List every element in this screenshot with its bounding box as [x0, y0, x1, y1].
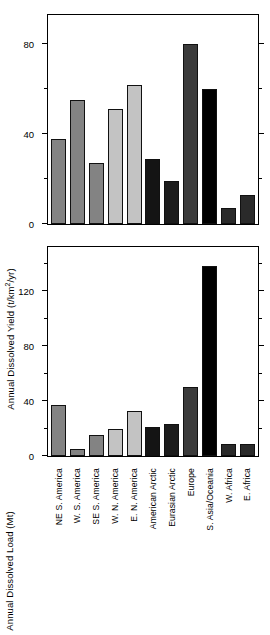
bar — [221, 208, 236, 224]
top-ytick-right-minor-60 — [258, 88, 262, 89]
top-ytick-label-0: 0 — [29, 219, 34, 230]
top-ytick-right-80 — [258, 43, 264, 44]
bar — [108, 429, 123, 457]
bottom-ytick-right-40 — [258, 400, 264, 401]
bar — [70, 100, 85, 224]
x-axis-label: E. Africa — [242, 468, 252, 501]
x-axis-label: Eurasian Arctic — [167, 468, 177, 527]
top-ytick-right-minor-20 — [258, 178, 262, 179]
top-ytick-80: 80 — [42, 43, 48, 44]
x-axis-label-slot: S. Asia/Oceania — [202, 468, 217, 543]
bar — [240, 195, 255, 224]
x-axis-label: Europe — [186, 468, 196, 496]
bar — [127, 85, 142, 224]
x-axis-label-slot: W. N. America — [108, 468, 123, 543]
top-ytick-minor-20 — [44, 178, 48, 179]
bottom-ytick-right-80 — [258, 345, 264, 346]
bottom-ytick-minor-60 — [44, 373, 48, 374]
bar — [221, 444, 236, 456]
x-axis-label-slot: E. N. America — [127, 468, 142, 543]
bottom-ytick-right-minor-60 — [258, 373, 262, 374]
x-axis-labels: NE S. AmericaW. S. AmericaSE S. AmericaW… — [48, 468, 258, 543]
x-axis-label-slot: American Arctic — [145, 468, 160, 543]
bar — [89, 163, 104, 224]
x-axis-label-slot: Eurasian Arctic — [164, 468, 179, 543]
x-axis-label: W. S. America — [72, 468, 82, 523]
top-bar-group — [49, 15, 257, 224]
bottom-ytick-right-minor-100 — [258, 318, 262, 319]
bar — [145, 159, 160, 224]
x-axis-label: E. N. America — [129, 468, 139, 522]
bottom-ytick-label-80: 80 — [23, 341, 34, 352]
bar — [108, 109, 123, 224]
bottom-ytick-minor-140 — [44, 263, 48, 264]
bottom-ytick-40: 40 — [42, 400, 48, 401]
top-plot-area: 0 40 80 — [47, 14, 259, 225]
bar — [240, 444, 255, 456]
x-axis-label-slot: W. S. America — [70, 468, 85, 543]
top-panel: Annual Dissolved Yield (t/km2/yr) 0 40 8… — [0, 6, 270, 234]
bar — [164, 424, 179, 456]
x-axis-label: NE S. America — [54, 468, 64, 525]
bar — [145, 427, 160, 456]
bottom-ytick-minor-20 — [44, 428, 48, 429]
x-axis-label-slot: SE S. America — [89, 468, 104, 543]
x-axis-label: W. N. America — [110, 468, 120, 524]
bar — [51, 405, 66, 456]
bottom-ytick-80: 80 — [42, 345, 48, 346]
bottom-ytick-120: 120 — [42, 290, 48, 291]
top-ytick-minor-60 — [44, 88, 48, 89]
bottom-ytick-label-40: 40 — [23, 396, 34, 407]
bar — [164, 181, 179, 224]
bottom-ytick-right-minor-20 — [258, 428, 262, 429]
bottom-ytick-right-120 — [258, 290, 264, 291]
x-axis-label-slot: E. Africa — [240, 468, 255, 543]
top-ytick-40: 40 — [42, 133, 48, 134]
bottom-ytick-0: 0 — [42, 455, 48, 456]
top-ytick-right-40 — [258, 133, 264, 134]
top-ytick-0: 0 — [42, 223, 48, 224]
bottom-plot-area: 0 40 80 120 — [47, 246, 259, 457]
bottom-panel: Annual Dissolved Load (Mt) 0 40 80 120 — [0, 238, 270, 466]
bar — [202, 89, 217, 224]
bar — [202, 266, 217, 456]
bar — [183, 387, 198, 456]
top-ytick-label-40: 40 — [23, 129, 34, 140]
bar — [51, 139, 66, 224]
bottom-panel-y-axis-label: Annual Dissolved Load (Mt) — [4, 457, 20, 635]
x-axis-label-slot: NE S. America — [51, 468, 66, 543]
x-axis-label: American Arctic — [148, 468, 158, 529]
bar — [70, 449, 85, 456]
bar — [127, 411, 142, 456]
x-axis-label: SE S. America — [91, 468, 101, 525]
bottom-ytick-label-0: 0 — [29, 451, 34, 462]
bar — [183, 44, 198, 224]
x-axis-label-slot: Europe — [183, 468, 198, 543]
x-axis-label: W. Africa — [224, 468, 234, 503]
bottom-ytick-right-minor-140 — [258, 263, 262, 264]
bottom-ytick-minor-100 — [44, 318, 48, 319]
bottom-plot-inner: 0 40 80 120 — [48, 247, 258, 456]
bottom-ytick-label-120: 120 — [18, 286, 34, 297]
bottom-bar-group — [49, 247, 257, 456]
top-ytick-label-80: 80 — [23, 39, 34, 50]
x-axis-label-slot: W. Africa — [221, 468, 236, 543]
bar — [89, 435, 104, 456]
top-plot-inner: 0 40 80 — [48, 15, 258, 224]
x-axis-label: S. Asia/Oceania — [205, 468, 215, 531]
